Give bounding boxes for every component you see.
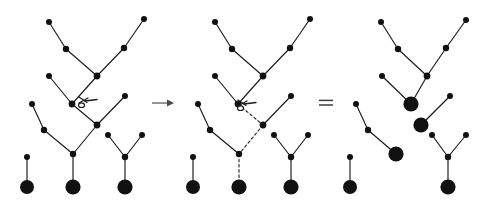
leaf-node <box>24 154 30 160</box>
scissors-handle <box>244 103 256 105</box>
internal-node <box>70 151 76 157</box>
tree-edge <box>432 135 448 157</box>
tree-edge <box>44 130 73 154</box>
tree-edge <box>66 49 97 76</box>
internal-node <box>41 127 47 133</box>
arrow-head <box>167 99 174 106</box>
leaf-node <box>122 93 128 99</box>
scissors-handle <box>85 100 97 102</box>
internal-node <box>229 46 235 52</box>
leaf-node <box>307 16 313 22</box>
leaf-node <box>195 101 201 107</box>
root-node <box>65 179 80 194</box>
tree-edge <box>124 19 144 48</box>
leaf-node <box>379 73 385 79</box>
tree-edge-cut <box>239 125 263 154</box>
internal-node <box>236 151 242 157</box>
tree-edge <box>97 48 124 76</box>
tree-edge <box>446 20 466 48</box>
leaf-node <box>347 154 353 160</box>
tree-edge <box>232 49 263 76</box>
internal-node <box>94 73 101 80</box>
tree-edge <box>427 48 446 76</box>
internal-node <box>395 46 401 52</box>
tree-edge <box>381 22 398 49</box>
tree-edge <box>215 76 238 104</box>
leaf-node <box>46 19 52 25</box>
tree-edge <box>125 135 142 157</box>
tree-edge <box>448 135 466 157</box>
tree-edge <box>49 76 72 104</box>
right-arrow <box>152 99 174 106</box>
root-node <box>343 180 357 194</box>
leaf-node <box>447 93 453 99</box>
internal-node <box>69 101 76 108</box>
internal-node <box>288 154 294 160</box>
leaf-node <box>141 16 147 22</box>
tree-edge <box>263 96 291 125</box>
tree-edge <box>210 130 239 154</box>
root-node <box>117 179 132 194</box>
root-node <box>186 180 200 194</box>
leaf-node <box>29 101 35 107</box>
internal-node <box>207 127 213 133</box>
tree-edge <box>72 104 97 125</box>
internal-node <box>445 154 451 160</box>
internal-node <box>287 45 293 51</box>
forest-cut-highlighted <box>186 16 313 195</box>
tree-edge <box>290 19 310 48</box>
figure-canvas <box>0 0 487 203</box>
leaf-node <box>212 19 218 25</box>
scissors-ring <box>79 103 85 108</box>
tree-edge <box>32 104 44 130</box>
tree-edge <box>356 104 368 130</box>
root-node <box>440 179 455 194</box>
leaf-node <box>463 17 469 23</box>
root-node <box>231 179 246 194</box>
tree-edge <box>108 135 125 157</box>
tree-edge <box>49 22 66 49</box>
scissors-cut-icon <box>79 97 98 107</box>
internal-node <box>121 45 127 51</box>
forest-cut-figure <box>0 0 487 203</box>
internal-node <box>260 122 267 129</box>
leaf-node <box>353 101 359 107</box>
tree-edge <box>238 76 263 104</box>
root-node <box>20 180 34 194</box>
leaf-node <box>271 132 277 138</box>
leaf-node <box>190 154 196 160</box>
internal-node <box>424 73 431 80</box>
leaf-node <box>105 132 111 138</box>
internal-node <box>122 154 128 160</box>
leaf-node <box>212 73 218 79</box>
scissors-ring <box>238 106 244 111</box>
root-node <box>283 179 298 194</box>
forest-after-cut <box>343 17 469 195</box>
tree-edge <box>198 104 210 130</box>
internal-node <box>63 46 69 52</box>
tree-edge <box>263 48 290 76</box>
tree-edge <box>291 135 308 157</box>
root-node <box>403 96 418 111</box>
internal-node <box>260 73 267 80</box>
leaf-node <box>429 132 435 138</box>
leaf-node <box>139 132 145 138</box>
root-node <box>413 117 428 132</box>
leaf-node <box>288 93 294 99</box>
tree-edge <box>274 135 291 157</box>
leaf-node <box>378 19 384 25</box>
tree-edge <box>215 22 232 49</box>
internal-node <box>365 127 371 133</box>
internal-node <box>94 122 101 129</box>
root-node <box>388 146 403 161</box>
equals-sign <box>319 100 333 105</box>
leaf-node <box>305 132 311 138</box>
leaf-node <box>46 73 52 79</box>
tree-edge <box>398 49 427 76</box>
tree-edge <box>73 125 97 154</box>
scissors-cut-icon <box>238 100 257 110</box>
leaf-node <box>463 132 469 138</box>
internal-node <box>443 45 449 51</box>
tree-edge <box>97 96 125 125</box>
